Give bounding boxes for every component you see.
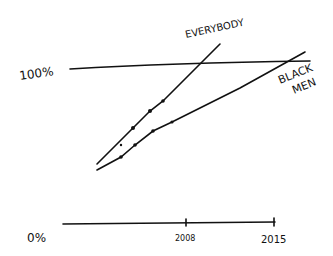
black-men-point — [133, 143, 137, 147]
everybody-point — [148, 109, 152, 113]
x-label-2015: 2015 — [261, 234, 286, 245]
y-label-100: 100% — [18, 64, 54, 83]
everybody-point — [131, 126, 135, 130]
x-label-2008: 2008 — [175, 234, 195, 243]
black-men-line — [97, 52, 305, 170]
everybody-point — [161, 99, 165, 103]
hundred-percent-line — [70, 61, 310, 69]
everybody-label: EVERYBODY — [184, 17, 246, 40]
y-label-0: 0% — [27, 231, 46, 245]
black-men-point — [170, 120, 173, 123]
everybody-line — [97, 44, 220, 164]
stray-point — [120, 144, 122, 146]
hand-drawn-chart: 100% EVERYBODY BLACK MEN 0% 2008 2015 — [0, 0, 333, 256]
black-men-point — [151, 129, 155, 133]
x-axis — [63, 222, 275, 224]
black-men-point — [119, 155, 123, 159]
